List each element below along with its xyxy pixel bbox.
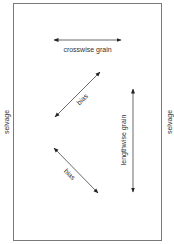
selvage-right-label: selvage — [166, 110, 174, 134]
fabric-outline — [14, 4, 162, 241]
selvage-left-label: selvage — [3, 110, 11, 134]
lengthwise-grain-label: lengthwise grain — [120, 115, 128, 166]
crosswise-grain-label: crosswise grain — [63, 46, 111, 54]
fabric-grain-diagram: selvage selvage crosswise grain bias bia… — [0, 0, 174, 244]
